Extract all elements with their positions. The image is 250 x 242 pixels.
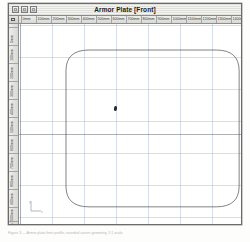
window-title: Armor Plate [Front] xyxy=(9,5,241,15)
ruler-tick-label: 1200mm xyxy=(203,17,217,22)
ruler-tick-label: 200mm xyxy=(53,17,65,22)
ruler-tick xyxy=(9,81,18,82)
ruler-tick xyxy=(9,45,18,46)
figure-caption: Figure 3 — Armor plate front profile, ro… xyxy=(8,231,238,236)
ruler-tick-label: 1000mm xyxy=(173,17,187,22)
ruler-tick xyxy=(9,27,18,28)
svg-text:x: x xyxy=(41,210,43,214)
ruler-tick-label: 1400mm xyxy=(233,17,242,22)
ruler-tick-label: 1100mm xyxy=(188,17,202,22)
ruler-tick xyxy=(9,63,18,64)
ruler-tick-label: 900mm xyxy=(158,17,170,22)
ruler-unit-icon[interactable] xyxy=(9,16,19,24)
ruler-tick-label: 700mm xyxy=(128,17,140,22)
ruler-tick-label: 800mm xyxy=(143,17,155,22)
ruler-tick xyxy=(9,171,18,172)
ruler-tick-label: 500mm xyxy=(10,121,15,133)
ruler-tick xyxy=(9,221,18,222)
ruler-tick-label: 1100mm xyxy=(10,223,15,224)
vertical-ruler[interactable]: 0mm100mm200mm300mm400mm500mm600mm700mm80… xyxy=(9,24,19,224)
ruler-tick xyxy=(9,207,18,208)
ruler-tick-label: 900mm xyxy=(10,193,15,205)
ruler-tick xyxy=(9,117,18,118)
ruler-tick-label: 800mm xyxy=(10,175,15,187)
ruler-tick xyxy=(9,135,18,136)
ruler-tick-label: 100mm xyxy=(38,17,50,22)
ruler-tick xyxy=(9,153,18,154)
ruler-tick-label: 300mm xyxy=(10,85,15,97)
armor-plate-outline[interactable] xyxy=(19,24,241,224)
application-window: Armor Plate [Front] 0mm100mm200mm300mm40… xyxy=(8,3,242,225)
window-titlebar[interactable]: Armor Plate [Front] xyxy=(9,4,241,16)
ruler-tick-label: 400mm xyxy=(10,103,15,115)
ruler-tick-label: 700mm xyxy=(10,157,15,169)
ruler-tick-label: 200mm xyxy=(10,67,15,79)
ruler-tick-label: 300mm xyxy=(68,17,80,22)
ruler-tick xyxy=(9,99,18,100)
ruler-tick-label: 400mm xyxy=(83,17,95,22)
origin-axis-indicator: x y xyxy=(29,200,43,214)
page-backdrop: Armor Plate [Front] 0mm100mm200mm300mm40… xyxy=(0,0,250,242)
ruler-tick-label: 600mm xyxy=(10,139,15,151)
horizontal-ruler[interactable]: 0mm100mm200mm300mm400mm500mm600mm700mm80… xyxy=(19,16,241,24)
ruler-tick-label: 600mm xyxy=(113,17,125,22)
ruler-tick xyxy=(9,189,18,190)
ruler-tick-label: 1300mm xyxy=(218,17,232,22)
ruler-tick-label: 100mm xyxy=(10,49,15,61)
ruler-tick-label: 0mm xyxy=(23,17,31,22)
ruler-tick-label: 0mm xyxy=(10,35,15,43)
drawing-canvas[interactable]: x y xyxy=(19,24,241,224)
ruler-tick-label: 500mm xyxy=(98,17,110,22)
